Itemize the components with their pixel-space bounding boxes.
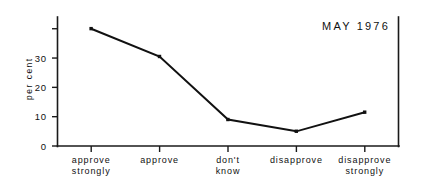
series-markers	[89, 27, 366, 133]
y-tick-label-0: 0	[41, 141, 47, 152]
series-line	[91, 29, 365, 132]
x-tick-label-5-line2: strongly	[345, 166, 384, 176]
chart-canvas: 0 10 20 30 per cent MAY 1976 approve str…	[0, 0, 435, 184]
y-tick-label-20: 20	[35, 82, 47, 93]
x-tick-marks	[91, 146, 365, 152]
x-tick-label-1-line1: approve	[72, 155, 111, 165]
data-point-1	[89, 27, 92, 30]
y-tick-label-30: 30	[35, 53, 47, 64]
data-point-3	[226, 118, 229, 121]
x-tick-label-3-line1: don't	[216, 155, 240, 165]
data-point-4	[295, 130, 298, 133]
x-tick-label-1-line2: strongly	[72, 166, 111, 176]
x-tick-label-4-line1: disapprove	[270, 155, 323, 165]
data-point-2	[158, 55, 161, 58]
y-tick-label-10: 10	[35, 111, 47, 122]
x-tick-label-3-line2: know	[216, 166, 241, 176]
y-axis-title: per cent	[24, 57, 34, 100]
x-tick-label-2-line1: approve	[140, 155, 179, 165]
y-tick-marks	[52, 29, 58, 146]
x-tick-label-5-line1: disapprove	[338, 155, 391, 165]
data-point-5	[363, 110, 366, 113]
chart-title: MAY 1976	[322, 20, 390, 32]
y-tick-labels: 0 10 20 30	[35, 53, 47, 152]
chart-figure: 0 10 20 30 per cent MAY 1976 approve str…	[0, 0, 435, 184]
x-tick-labels: approve strongly approve don't know disa…	[72, 155, 392, 176]
